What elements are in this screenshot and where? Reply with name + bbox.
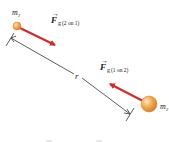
force-label-1-on-2: → F g (1 on 2) — [99, 57, 129, 74]
svg-text:F: F — [50, 15, 57, 25]
dimension-tick-left — [6, 33, 14, 46]
mass-1-ball — [13, 22, 21, 30]
mass-2: m2 — [141, 96, 169, 112]
force-arrow-2-on-1 — [20, 28, 55, 45]
svg-text:(1 on 2): (1 on 2) — [111, 67, 129, 74]
mass-1: m1 — [12, 8, 21, 30]
mass-2-label: m2 — [160, 102, 169, 112]
mass-1-label: m1 — [12, 8, 20, 18]
svg-text:F: F — [99, 62, 106, 72]
force-label-2-on-1: → F g (2 on 1) — [50, 10, 80, 27]
dimension-line-left — [11, 38, 74, 74]
distance-dimension: r — [6, 33, 134, 121]
distance-label: r — [75, 71, 79, 81]
svg-text:g: g — [107, 67, 110, 73]
dimension-line-right — [82, 78, 130, 114]
force-arrow-1-on-2 — [110, 84, 143, 101]
gravitation-diagram: r → F g (2 on 1) → F g (1 on 2) m1 m2 — [0, 0, 169, 142]
svg-text:(2 on 1): (2 on 1) — [62, 20, 80, 27]
mass-2-ball — [141, 96, 157, 112]
svg-text:g: g — [58, 20, 61, 26]
